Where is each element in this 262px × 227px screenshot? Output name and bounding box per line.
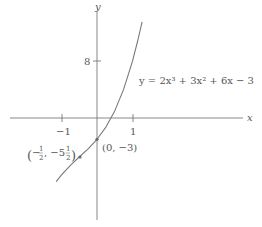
point-y-intercept [95,138,98,141]
point-label-y-intercept: (0, −3) [102,142,137,153]
equation-label: y = 2x³ + 3x² + 6x − 3 [138,75,254,86]
point-inflection [78,155,81,158]
svg-text:): ) [71,148,76,163]
x-tick-label-1: 1 [130,126,136,137]
svg-text:2: 2 [39,154,43,162]
point-label-inflection: ( − 1 2 , −5 1 2 ) [27,145,76,163]
svg-text:1: 1 [66,145,70,153]
y-axis-label: y [94,1,101,12]
svg-text:2: 2 [66,154,70,162]
svg-text:, −5: , −5 [44,147,65,158]
y-tick-label-8: 8 [84,56,90,67]
svg-text:1: 1 [39,145,43,153]
x-axis-label: x [247,112,253,123]
chart-canvas: x y −1 1 8 y = 2x³ + 3x² + 6x − 3 (0, −3… [0,0,262,227]
x-tick-label-neg1: −1 [56,126,71,137]
